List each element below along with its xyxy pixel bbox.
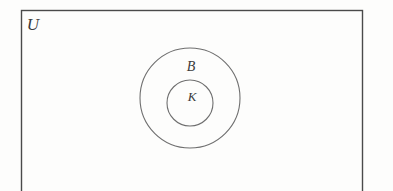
diagram-canvas: U B K (0, 0, 393, 191)
set-b-label: B (187, 59, 196, 74)
euler-diagram-figure: U B K (0, 0, 393, 191)
set-k-label: K (187, 89, 198, 104)
universe-label: U (27, 15, 41, 34)
